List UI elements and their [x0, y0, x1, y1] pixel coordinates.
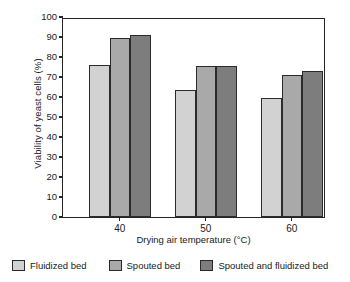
legend-item: Fluidized bed: [12, 260, 87, 271]
legend-label: Spouted bed: [127, 260, 181, 271]
y-tick-mark: [59, 16, 63, 17]
x-tick-label: 60: [272, 223, 312, 234]
bar-chart-figure: Viability of yeast cells (%) 10090807060…: [0, 0, 350, 282]
bar: [261, 98, 282, 217]
y-tick-label: 0: [52, 211, 57, 222]
plot-area: 1009080706050403020100 405060: [62, 18, 325, 218]
y-tick-label: 50: [46, 111, 57, 122]
legend-swatch: [200, 260, 213, 271]
y-tick-mark: [59, 36, 63, 37]
x-axis-title: Drying air temperature (°C): [62, 234, 325, 245]
y-tick-mark: [59, 96, 63, 97]
bar: [110, 38, 131, 217]
legend-swatch: [12, 260, 25, 271]
x-tick-mark: [291, 217, 292, 221]
y-tick-label: 90: [46, 31, 57, 42]
bar: [89, 65, 110, 217]
bar: [130, 35, 151, 217]
y-tick-mark: [59, 76, 63, 77]
y-tick-label: 40: [46, 131, 57, 142]
bar: [175, 90, 196, 217]
legend-item: Spouted and fluidized bed: [200, 260, 328, 271]
plot-inner: 1009080706050403020100 405060: [63, 19, 324, 217]
y-tick-label: 60: [46, 91, 57, 102]
legend-label: Spouted and fluidized bed: [218, 260, 328, 271]
x-tick-mark: [119, 217, 120, 221]
y-tick-label: 70: [46, 71, 57, 82]
y-axis-title: Viability of yeast cells (%): [32, 14, 43, 214]
legend-item: Spouted bed: [109, 260, 181, 271]
y-tick-label: 80: [46, 51, 57, 62]
y-tick-label: 20: [46, 171, 57, 182]
x-tick-label: 40: [100, 223, 140, 234]
y-tick-mark: [59, 156, 63, 157]
legend-swatch: [109, 260, 122, 271]
bar: [282, 75, 303, 217]
bar: [302, 71, 323, 217]
legend-label: Fluidized bed: [30, 260, 87, 271]
y-tick-mark: [59, 136, 63, 137]
y-tick-mark: [59, 116, 63, 117]
x-tick-mark: [205, 217, 206, 221]
y-tick-mark: [59, 216, 63, 217]
bar: [196, 66, 217, 217]
bar: [216, 66, 237, 217]
y-tick-label: 10: [46, 191, 57, 202]
y-tick-label: 100: [41, 11, 57, 22]
chart-legend: Fluidized bedSpouted bedSpouted and flui…: [8, 256, 344, 274]
y-tick-label: 30: [46, 151, 57, 162]
y-tick-mark: [59, 176, 63, 177]
y-tick-mark: [59, 196, 63, 197]
x-tick-label: 50: [186, 223, 226, 234]
y-tick-mark: [59, 56, 63, 57]
